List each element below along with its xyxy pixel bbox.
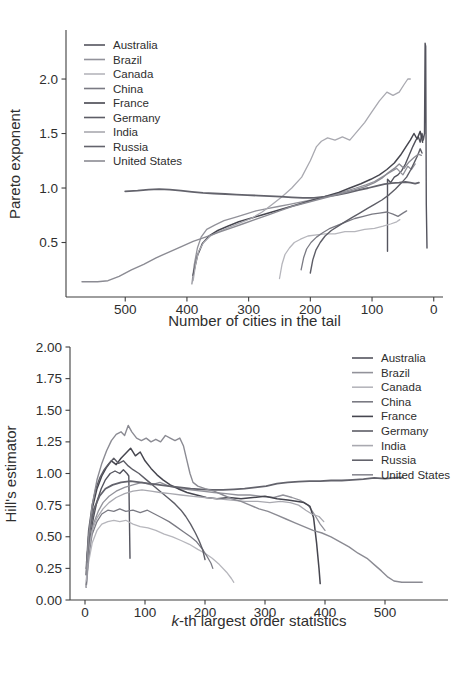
legend-label-india: India (381, 440, 407, 452)
legend-label-russia: Russia (113, 141, 149, 153)
series-australia (388, 43, 428, 251)
legend-label-australia: Australia (381, 352, 426, 364)
legend-label-france: France (113, 97, 149, 109)
series-brazil (87, 482, 325, 574)
legend-label-china: China (381, 396, 412, 408)
series-russia (125, 182, 419, 198)
legend: AustraliaBrazilCanadaChinaFranceGermanyI… (84, 39, 182, 167)
x-axis-title: k-th largest order statistics (171, 612, 346, 629)
y-tick-label: 1.0 (39, 181, 58, 196)
series-russia (87, 477, 403, 562)
series-france (86, 448, 320, 583)
y-tick-label: 0.25 (36, 561, 62, 576)
x-tick-label: 0 (430, 302, 438, 317)
y-axis-title: Hill's estimator (2, 425, 19, 522)
x-tick-label: 100 (361, 302, 384, 317)
legend-label-india: India (113, 126, 139, 138)
legend-label-france: France (381, 410, 417, 422)
hills-estimator-chart: 01002003004005000.000.250.500.751.001.25… (0, 335, 464, 678)
series-united_states (86, 425, 422, 582)
legend-label-united_states: United States (113, 155, 182, 167)
legend-label-russia: Russia (381, 454, 417, 466)
series-canada (280, 220, 400, 279)
x-tick-label: 500 (114, 302, 137, 317)
x-axis-title: Number of cities in the tail (168, 312, 341, 329)
pareto-chart-svg: 50040030020010000.51.01.52.0Pareto expon… (0, 0, 464, 335)
y-tick-label: 2.0 (39, 72, 58, 87)
legend-label-canada: Canada (113, 68, 154, 80)
y-tick-label: 2.00 (36, 340, 62, 355)
y-tick-label: 1.00 (36, 466, 62, 481)
x-tick-label: 500 (374, 605, 397, 620)
legend: AustraliaBrazilCanadaChinaFranceGermanyI… (352, 352, 450, 481)
x-tick-label: 100 (134, 605, 157, 620)
y-axis-title: Pareto exponent (6, 108, 23, 219)
x-tick-label: 0 (81, 605, 89, 620)
legend-label-canada: Canada (381, 381, 422, 393)
legend-label-germany: Germany (113, 112, 161, 124)
pareto-exponent-chart: 50040030020010000.51.01.52.0Pareto expon… (0, 0, 464, 335)
y-tick-label: 1.25 (36, 434, 62, 449)
series-india (86, 490, 324, 581)
series-brazil (192, 164, 415, 284)
y-tick-label: 0.75 (36, 498, 62, 513)
legend-label-germany: Germany (381, 425, 429, 437)
hills-chart-svg: 01002003004005000.000.250.500.751.001.25… (0, 335, 464, 678)
y-tick-label: 1.5 (39, 126, 58, 141)
legend-label-brazil: Brazil (113, 54, 142, 66)
legend-label-united_states: United States (381, 469, 450, 481)
y-tick-label: 1.75 (36, 371, 62, 386)
series-china (301, 211, 407, 270)
figure: 50040030020010000.51.01.52.0Pareto expon… (0, 0, 464, 678)
legend-label-china: China (113, 83, 144, 95)
legend-label-australia: Australia (113, 39, 158, 51)
y-tick-label: 0.5 (39, 235, 58, 250)
y-tick-label: 1.50 (36, 403, 62, 418)
y-tick-label: 0.50 (36, 529, 62, 544)
series-canada (86, 520, 234, 587)
y-tick-label: 0.00 (36, 593, 62, 608)
legend-label-brazil: Brazil (381, 367, 410, 379)
